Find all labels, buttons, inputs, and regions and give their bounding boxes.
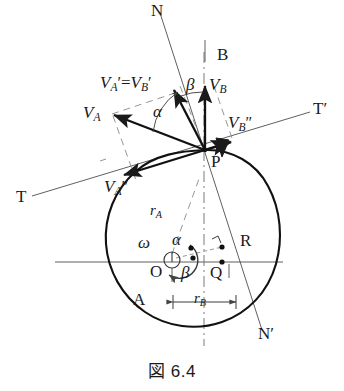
va-sub: A <box>93 111 100 124</box>
label-radius-rB: rB <box>194 291 206 308</box>
label-axis-T-prime: T′ <box>313 100 327 117</box>
label-point-P: P <box>211 153 220 170</box>
axis-line-NN <box>161 16 262 330</box>
caption-number: 6.4 <box>171 362 196 381</box>
vbprime-sub: B <box>141 81 148 94</box>
vadp-base: V <box>104 177 114 196</box>
label-body-B: B <box>217 46 228 63</box>
label-beta-upper: β <box>186 76 194 93</box>
label-point-O: O <box>150 263 162 280</box>
dashed-vprime-guide <box>112 92 178 114</box>
vaprime-base: V <box>100 73 110 92</box>
label-vector-VA: VA <box>83 104 100 124</box>
dashed-short-left-tick <box>100 159 106 161</box>
label-point-Q: Q <box>210 264 222 281</box>
figure-container: N B VA′=VB′ β VB VA T′ α VB″ P T VA″ rA … <box>0 0 344 391</box>
label-alpha-lower: α <box>172 231 181 248</box>
label-body-A: A <box>133 291 145 308</box>
rb-sub: B <box>200 297 206 308</box>
dot-P <box>203 148 207 152</box>
label-radius-rA: rA <box>150 203 162 220</box>
dot-beta-lower <box>190 255 195 260</box>
label-beta-lower: β <box>181 264 189 281</box>
cam-profile-path <box>106 150 280 327</box>
label-point-R: R <box>240 232 251 249</box>
label-vector-VB: VB <box>209 76 226 96</box>
label-axis-N: N <box>151 2 163 19</box>
dashed-O-to-R <box>176 247 222 258</box>
vbprime-base: V <box>131 73 141 92</box>
vbprime-prime: ′ <box>148 74 152 91</box>
vadp-prime: ″ <box>121 178 128 195</box>
dot-alpha-lower <box>188 245 193 250</box>
cam-outline-body-a <box>106 150 280 327</box>
axis-lines <box>32 16 310 346</box>
label-vector-VA-double-prime: VA″ <box>104 178 128 198</box>
label-axis-T: T <box>16 188 26 205</box>
figure-caption: 図 6.4 <box>0 357 344 382</box>
vbdp-prime: ″ <box>245 114 252 131</box>
dashed-construction <box>100 86 233 258</box>
label-vector-VA-prime-equals-VB-prime: VA′=VB′ <box>100 74 152 94</box>
kinematics-diagram <box>0 0 344 391</box>
dot-R <box>219 244 224 249</box>
label-axis-N-prime: N′ <box>258 325 274 342</box>
vaprime-eq: = <box>121 73 131 92</box>
vbdp-base: V <box>228 113 238 132</box>
ra-sub: A <box>156 209 162 220</box>
right-angle-marker-R <box>212 236 221 243</box>
label-alpha-upper: α <box>153 103 162 120</box>
caption-symbol: 図 <box>148 361 166 381</box>
va-base: V <box>83 103 93 122</box>
vector-VA-double-prime <box>124 150 205 175</box>
label-omega: ω <box>138 234 150 251</box>
vb-base: V <box>209 75 219 94</box>
vb-sub: B <box>219 83 226 96</box>
label-vector-VB-double-prime: VB″ <box>228 114 252 134</box>
